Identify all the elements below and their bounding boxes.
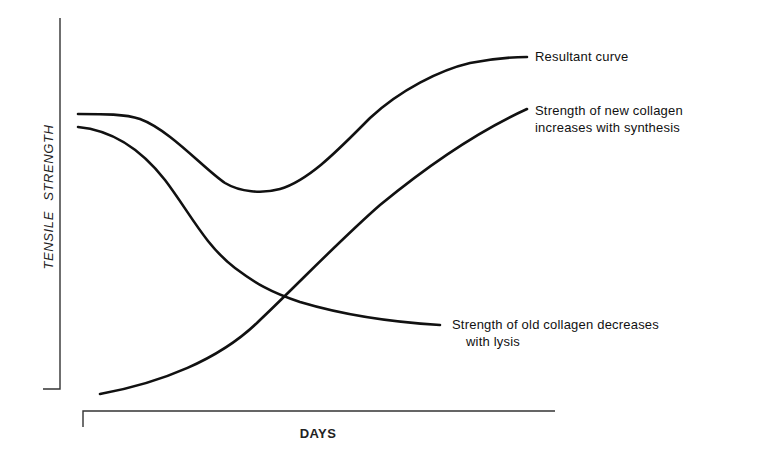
new-collagen-curve: [100, 109, 527, 394]
y-axis-label: TENSILE STRENGTH: [41, 125, 56, 270]
old-collagen-curve: [78, 127, 440, 325]
resultant-curve: [78, 57, 527, 192]
new-collagen-label: Strength of new collagen increases with …: [535, 102, 683, 136]
new-collagen-label-line1: Strength of new collagen: [535, 102, 683, 119]
new-collagen-label-line2: increases with synthesis: [535, 119, 683, 136]
old-collagen-label-line2: with lysis: [452, 333, 659, 350]
old-collagen-label: Strength of old collagen decreases with …: [452, 316, 659, 350]
chart-canvas: [0, 0, 765, 460]
old-collagen-label-line1: Strength of old collagen decreases: [452, 316, 659, 333]
resultant-curve-label-text: Resultant curve: [535, 49, 628, 64]
resultant-curve-label: Resultant curve: [535, 48, 628, 65]
x-axis: [83, 411, 555, 427]
x-axis-label: DAYS: [300, 426, 337, 441]
